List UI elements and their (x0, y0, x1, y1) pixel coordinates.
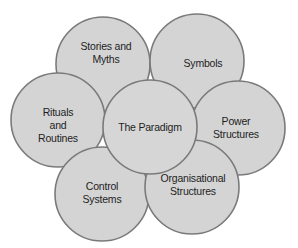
symbols-label: Symbols (184, 57, 223, 70)
power-line-1: Power (213, 115, 259, 128)
rituals-line-2: and (38, 119, 78, 132)
paradigm-line-1: The Paradigm (118, 121, 182, 134)
symbols-line-1: Symbols (184, 57, 223, 70)
organisational-line-1: Organisational (161, 172, 226, 185)
organisational-structures-label: Organisational Structures (161, 172, 226, 198)
stories-myths-label: Stories and Myths (81, 40, 132, 66)
organisational-line-2: Structures (161, 185, 226, 198)
rituals-line-3: Routines (38, 132, 78, 145)
paradigm-label: The Paradigm (118, 121, 182, 134)
control-line-2: Systems (83, 193, 122, 206)
rituals-routines-label: Rituals and Routines (38, 106, 78, 145)
rituals-line-1: Rituals (38, 106, 78, 119)
power-line-2: Structures (213, 128, 259, 141)
stories-myths-line-2: Myths (81, 53, 132, 66)
power-structures-label: Power Structures (213, 115, 259, 141)
control-line-1: Control (83, 180, 122, 193)
control-systems-label: Control Systems (83, 180, 122, 206)
stories-myths-line-1: Stories and (81, 40, 132, 53)
